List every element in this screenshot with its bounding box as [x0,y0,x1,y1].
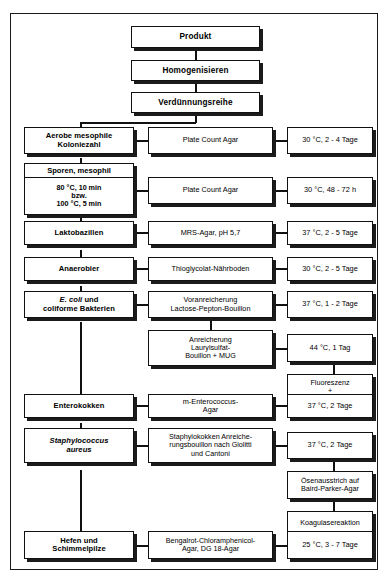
box-medium-thioglycolat[interactable]: Thioglycolat-Nährboden [148,257,273,281]
box-organism-hefen-schimmelpilze[interactable]: Hefen undSchimmelpilze [24,531,134,559]
box-medium-7-line3: und Cantoni [191,449,230,458]
box-organism-hefen-line2: Schimmelpilze [52,544,105,553]
box-organism-anaerobier[interactable]: Anaerobier [24,257,134,281]
connector-elbow-horizontal [80,122,196,124]
box-sporen-header: Sporen, mesophil [25,164,133,178]
box-medium-anreicherung-laurylsulfat[interactable]: AnreicherungLaurylsulfat-Bouillon + MUG [148,330,273,366]
box-condition-3-label: 37 °C, 2 - 5 Tage [288,229,372,237]
trunk-ecoli-enterokokken [80,322,82,398]
link-row3-medium-condition [273,232,287,234]
link-row7-org-medium [134,445,148,447]
box-medium-3-label: MRS-Agar, pH 5,7 [149,229,272,237]
link-row8-medium-condition [273,545,287,547]
connector-staph-oesenausstrich [333,459,335,471]
box-sporen-line3: 100 °C, 5 min [57,199,102,208]
box-organism-aerobe-line2: Koloniezahl [57,140,100,149]
link-row6-medium-condition [273,405,287,407]
box-condition-3[interactable]: 37 °C, 2 - 5 Tage [287,221,373,245]
box-medium-voranreicherung[interactable]: VoranreicherungLactose-Pepton-Bouillon [148,291,273,318]
box-homogenisieren-label: Homogenisieren [132,66,259,75]
box-organism-enterokokken-label: Enterokokken [25,402,133,411]
flowchart-canvas: Produkt Homogenisieren Verdünnungsreihe … [0,0,392,585]
box-medium-5-line2: Lactose-Pepton-Bouillon [171,304,251,313]
link-sub-medium-condition [273,348,287,350]
box-condition-7[interactable]: 37 °C, 2 Tage [287,432,373,459]
box-medium-8-line2: Agar, DG 18-Agar [182,544,239,553]
box-homogenisieren[interactable]: Homogenisieren [131,60,260,81]
box-organism-ecoli-coliforme[interactable]: E. coli undcoliforme Bakterien [24,291,134,318]
link-row4-medium-condition [273,268,287,270]
box-step1-line2: Baird-Parker-Agar [301,484,359,493]
link-row5-org-medium [134,304,148,306]
box-produkt-label: Produkt [132,32,259,41]
box-condition-1[interactable]: 30 °C, 2 - 4 Tage [287,127,373,154]
box-step2-label: Koagulasereaktion [288,519,372,527]
box-medium-plate-count-agar-2[interactable]: Plate Count Agar [148,177,273,204]
box-condition-6[interactable]: 37 °C, 2 Tage [287,394,373,418]
box-organism-enterokokken[interactable]: Enterokokken [24,394,134,418]
link-row8-org-medium [134,545,148,547]
box-condition-2[interactable]: 30 °C, 48 - 72 h [287,177,373,204]
box-sub-medium-line3: Bouillon + MUG [185,351,236,360]
link-row5-medium-condition [273,304,287,306]
box-condition-8[interactable]: 25 °C, 3 - 7 Tage [287,531,373,559]
box-condition-sub-44c[interactable]: 44 °C, 1 Tag [287,334,373,362]
box-condition-5[interactable]: 37 °C, 1 - 2 Tage [287,291,373,318]
box-medium-bengalrot-chloramphenicol[interactable]: Bengalrot-Chloramphenicol-Agar, DG 18-Ag… [148,531,273,559]
box-condition-6-label: 37 °C, 2 Tage [288,402,372,410]
box-organism-laktobazillen[interactable]: Laktobazillen [24,221,134,245]
link-row2-medium-condition [273,190,287,192]
link-row6-org-medium [134,405,148,407]
link-row4-org-medium [134,268,148,270]
box-organism-anaerobier-label: Anaerobier [25,265,133,274]
box-medium-6-line2: Agar [203,405,219,414]
box-sporen-body: 80 °C, 10 minbzw.100 °C, 5 min [25,178,133,214]
connector-oesenausstrich-koagulase [333,499,335,511]
box-medium-plate-count-agar-1[interactable]: Plate Count Agar [148,127,273,154]
connector-44c-fluoreszenz [333,362,335,374]
box-condition-8-label: 25 °C, 3 - 7 Tage [288,541,372,549]
box-medium-mrs-agar[interactable]: MRS-Agar, pH 5,7 [148,221,273,245]
box-step-oesenausstrich[interactable]: Ösenausstrich aufBaird-Parker-Agar [287,471,373,499]
box-organism-coliforme-line2: coliforme Bakterien [43,304,115,313]
box-medium-m-enterococcus-agar[interactable]: m-Enterococcus-Agar [148,394,273,418]
box-organism-aerobe-mesophile[interactable]: Aerobe mesophileKoloniezahl [24,127,134,154]
box-verduennungsreihe[interactable]: Verdünnungsreihe [131,92,260,113]
box-condition-1-label: 30 °C, 2 - 4 Tage [288,136,372,144]
box-condition-4[interactable]: 30 °C, 2 - 5 Tage [287,257,373,281]
link-row1-org-medium [134,140,148,142]
box-medium-1-label: Plate Count Agar [149,136,272,144]
box-condition-2-label: 30 °C, 48 - 72 h [288,186,372,194]
box-produkt[interactable]: Produkt [131,26,260,48]
box-condition-4-label: 30 °C, 2 - 5 Tage [288,265,372,273]
link-row2-org-medium [134,190,148,192]
box-condition-7-label: 37 °C, 2 Tage [288,441,372,449]
box-medium-2-label: Plate Count Agar [149,186,272,194]
connector-voranreicherung-anreicherung [210,318,212,330]
box-medium-staphylokokken-bouillon[interactable]: Staphylokokken Anreiche-rungsbouillon na… [148,428,273,463]
box-condition-5-label: 37 °C, 1 - 2 Tage [288,300,372,308]
box-organism-staph-line2: aureus [66,445,91,454]
link-row3-org-medium [134,232,148,234]
box-organism-sporen-mesophil[interactable]: Sporen, mesophil 80 °C, 10 minbzw.100 °C… [24,163,134,215]
box-condition-sub-label: 44 °C, 1 Tag [288,344,372,352]
link-row7-medium-condition [273,445,287,447]
link-row1-medium-condition [273,140,287,142]
box-medium-4-label: Thioglycolat-Nährboden [149,265,272,273]
box-organism-laktobazillen-label: Laktobazillen [25,229,133,238]
box-verduennungsreihe-label: Verdünnungsreihe [132,98,259,107]
box-organism-staphylococcus-aureus[interactable]: Staphylococcusaureus [24,428,134,463]
trunk-staph-hefen [80,470,82,531]
